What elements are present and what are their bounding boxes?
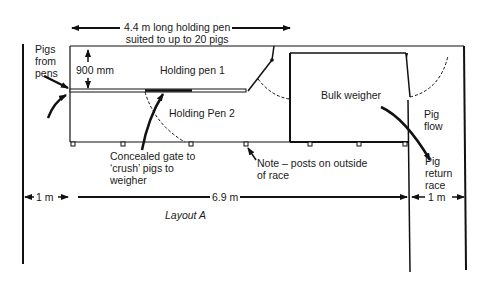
pen1-gate-hinge: [270, 58, 274, 62]
pigs-from-pens-line: pens: [35, 67, 58, 79]
top-dimension-label: 4.4 m long holding pen suited to up to 2…: [124, 21, 230, 45]
pigs-from-pens-line: from: [35, 55, 58, 67]
layout-diagram: [0, 0, 485, 286]
left-gap-label: 1 m: [36, 191, 54, 203]
post: [71, 142, 75, 146]
pen1-gate-post: [272, 46, 274, 60]
pig-return-race-label: Pig return race: [425, 155, 452, 191]
top-dimension-line1: 4.4 m long holding pen: [124, 21, 230, 33]
pig-return-race-line: race: [425, 179, 452, 191]
note-posts-line: of race: [257, 169, 367, 181]
layout-title: Layout A: [165, 209, 206, 221]
note-posts-arrow: [248, 148, 256, 160]
concealed-gate-label: Concealed gate to ‘crush’ pigs to weighe…: [110, 150, 195, 186]
post: [244, 142, 248, 146]
pig-return-race-line: return: [425, 167, 452, 179]
top-dimension-line2: suited to up to 20 pigs: [124, 33, 230, 45]
note-posts-label: Note – posts on outside of race: [257, 157, 367, 181]
right-gap-label: 1 m: [428, 191, 446, 203]
pig-return-race-line: Pig: [425, 155, 452, 167]
post: [308, 142, 312, 146]
concealed-gate-line: weigher: [110, 174, 195, 186]
main-length-label: 6.9 m: [212, 191, 238, 203]
concealed-gate-line: Concealed gate to: [110, 150, 195, 162]
weigher-exit-gate: [406, 53, 410, 97]
pigs-from-pens-label: Pigs from pens: [35, 43, 58, 79]
post: [403, 142, 407, 146]
pig-flow-line: flow: [424, 120, 443, 132]
pigs-entry-arrow-2: [48, 95, 66, 118]
pen1-gate-swing: [258, 79, 290, 99]
holding-pen-2-label: Holding Pen 2: [169, 107, 235, 119]
concealed-gate-line: ‘crush’ pigs to: [110, 162, 195, 174]
pen-width-label: 900 mm: [76, 64, 114, 76]
bulk-weigher-label: Bulk weigher: [321, 89, 381, 101]
pigs-from-pens-line: Pigs: [35, 43, 58, 55]
post: [189, 142, 193, 146]
pig-flow-line: Pig: [424, 108, 443, 120]
pen1-gate: [248, 60, 272, 91]
race-right-wall: [464, 46, 466, 270]
note-posts-line: Note – posts on outside: [257, 157, 367, 169]
holding-pen-1-label: Holding pen 1: [160, 64, 225, 76]
post: [121, 142, 125, 146]
post: [357, 142, 361, 146]
pig-flow-arrow: [381, 107, 430, 160]
pig-flow-label: Pig flow: [424, 108, 443, 132]
weigher-gate-swing: [410, 56, 448, 97]
return-race-left-wall: [408, 100, 410, 272]
